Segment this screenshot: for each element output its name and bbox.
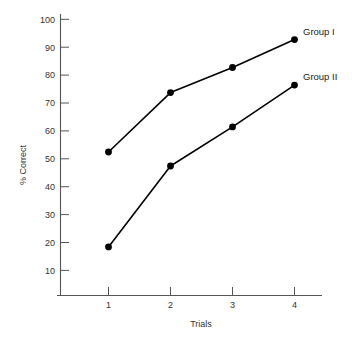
- data-point: [167, 163, 174, 170]
- y-tick-label: 30: [45, 210, 55, 220]
- y-axis-ticks: [61, 19, 70, 270]
- data-point: [291, 82, 298, 89]
- data-point: [105, 244, 112, 251]
- legend-label-group-i: Group I: [303, 26, 335, 37]
- data-point: [229, 124, 236, 131]
- x-tick-label: 1: [106, 300, 111, 310]
- data-point: [291, 36, 298, 43]
- data-point: [167, 89, 174, 96]
- series-group-ii: [105, 82, 298, 251]
- y-tick-label: 40: [45, 182, 55, 192]
- y-tick-label: 60: [45, 126, 55, 136]
- x-tick-label: 3: [230, 300, 235, 310]
- series-line-group-ii: [109, 85, 295, 247]
- y-tick-label: 70: [45, 98, 55, 108]
- y-tick-label: 10: [45, 266, 55, 276]
- series-group-i: [105, 36, 298, 155]
- y-axis-tick-labels: 100 90 80 70 60 50 40 30 20 10: [40, 15, 55, 276]
- chart-container: 100 90 80 70 60 50 40 30 20 10 1 2 3 4 T…: [0, 0, 352, 338]
- series-line-group-i: [109, 40, 295, 152]
- y-tick-label: 90: [45, 43, 55, 53]
- y-tick-label: 100: [40, 15, 55, 25]
- x-tick-label: 4: [292, 300, 297, 310]
- data-point: [229, 64, 236, 71]
- y-axis-title: % Correct: [18, 145, 28, 186]
- y-tick-label: 50: [45, 154, 55, 164]
- x-axis-ticks: [109, 287, 295, 296]
- data-point: [105, 149, 112, 156]
- y-tick-label: 80: [45, 70, 55, 80]
- x-axis-tick-labels: 1 2 3 4: [106, 300, 297, 310]
- x-axis-title: Trials: [190, 319, 212, 329]
- line-chart: 100 90 80 70 60 50 40 30 20 10 1 2 3 4 T…: [0, 0, 352, 338]
- legend-label-group-ii: Group II: [303, 71, 337, 82]
- x-tick-label: 2: [168, 300, 173, 310]
- y-tick-label: 20: [45, 238, 55, 248]
